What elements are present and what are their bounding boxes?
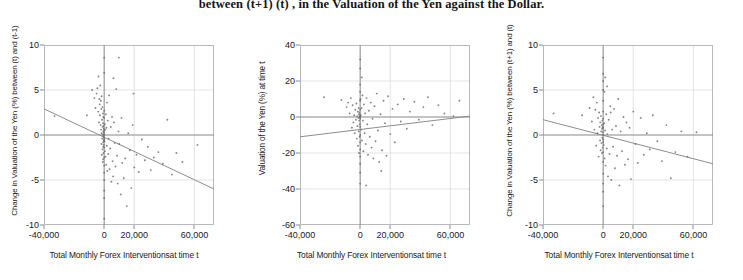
x-tick-label: 20,000 xyxy=(120,231,148,240)
chart-panels: Change in Valuation of the Yen (%) betwe… xyxy=(0,18,743,280)
x-axis-label-middle: Total Monthly Forex Interventionsat time… xyxy=(248,250,495,260)
y-tick-mark xyxy=(40,45,44,46)
x-tick-mark xyxy=(543,225,544,229)
panel-left: Change in Valuation of the Yen (%) betwe… xyxy=(0,18,248,280)
y-tick-mark xyxy=(40,90,44,91)
y-axis-label-middle: Valuation of the Yen (%) at time t xyxy=(258,21,267,217)
y-axis-label-left: Change in Valuation of the Yen (%) betwe… xyxy=(10,16,19,226)
x-axis-label-right: Total Monthly Forex Interventionsat time… xyxy=(495,250,743,260)
plot-area-right: -10-50510 -40,000020,00060,000 xyxy=(543,45,713,225)
x-tick-mark xyxy=(360,225,361,229)
plot-area-middle: -60-40-2002040 -40,000020,00060,000 xyxy=(300,45,470,225)
y-tick-label: -60 xyxy=(282,221,295,230)
y-tick-label: -10 xyxy=(26,221,39,230)
y-tick-label: 10 xyxy=(29,41,39,50)
figure-caption: between (t+1) (t) , in the Valuation of … xyxy=(0,0,743,12)
x-tick-mark xyxy=(603,225,604,229)
scatter-plot-middle xyxy=(300,45,470,225)
x-tick-mark xyxy=(194,225,195,229)
panel-right: Change in Valuation of the Yen (%) betwe… xyxy=(495,18,743,280)
x-tick-mark xyxy=(300,225,301,229)
y-tick-label: -40 xyxy=(282,185,295,194)
x-tick-label: 60,000 xyxy=(680,231,708,240)
y-tick-mark xyxy=(539,180,543,181)
y-tick-label: 5 xyxy=(533,86,538,95)
y-tick-label: 0 xyxy=(34,131,39,140)
y-tick-label: -5 xyxy=(530,176,538,185)
x-axis-label-left: Total Monthly Forex Interventionsat time… xyxy=(0,250,248,260)
y-tick-mark xyxy=(296,117,300,118)
y-tick-mark xyxy=(296,81,300,82)
y-tick-label: 0 xyxy=(533,131,538,140)
x-tick-mark xyxy=(390,225,391,229)
x-tick-mark xyxy=(104,225,105,229)
y-tick-mark xyxy=(539,135,543,136)
y-tick-mark xyxy=(40,180,44,181)
y-tick-label: 5 xyxy=(34,86,39,95)
x-tick-label: 0 xyxy=(358,231,363,240)
x-tick-label: 60,000 xyxy=(181,231,209,240)
y-tick-mark xyxy=(296,153,300,154)
y-tick-label: 40 xyxy=(285,41,295,50)
y-tick-label: 0 xyxy=(290,113,295,122)
y-tick-mark xyxy=(539,45,543,46)
y-tick-mark xyxy=(40,135,44,136)
panel-middle: Valuation of the Yen (%) at time t -60-4… xyxy=(248,18,495,280)
x-tick-label: -40,000 xyxy=(528,231,559,240)
x-tick-label: 20,000 xyxy=(619,231,647,240)
plot-area-left: -10-50510 -40,000020,00060,000 xyxy=(44,45,214,225)
x-tick-label: 60,000 xyxy=(437,231,465,240)
y-tick-mark xyxy=(539,90,543,91)
y-tick-mark xyxy=(296,45,300,46)
y-tick-label: 10 xyxy=(528,41,538,50)
y-tick-label: -5 xyxy=(31,176,39,185)
x-tick-mark xyxy=(693,225,694,229)
y-tick-label: -20 xyxy=(282,149,295,158)
y-tick-label: -10 xyxy=(525,221,538,230)
y-tick-mark xyxy=(296,189,300,190)
y-tick-label: 20 xyxy=(285,77,295,86)
y-axis-label-right: Change in Valuation of the Yen (%) betwe… xyxy=(505,16,514,226)
scatter-plot-left xyxy=(44,45,214,225)
x-tick-label: 20,000 xyxy=(376,231,404,240)
scatter-plot-right xyxy=(543,45,713,225)
x-tick-mark xyxy=(134,225,135,229)
x-tick-label: -40,000 xyxy=(29,231,60,240)
x-tick-mark xyxy=(44,225,45,229)
x-tick-label: 0 xyxy=(102,231,107,240)
x-tick-mark xyxy=(633,225,634,229)
x-tick-mark xyxy=(450,225,451,229)
x-tick-label: 0 xyxy=(601,231,606,240)
x-tick-label: -40,000 xyxy=(285,231,316,240)
